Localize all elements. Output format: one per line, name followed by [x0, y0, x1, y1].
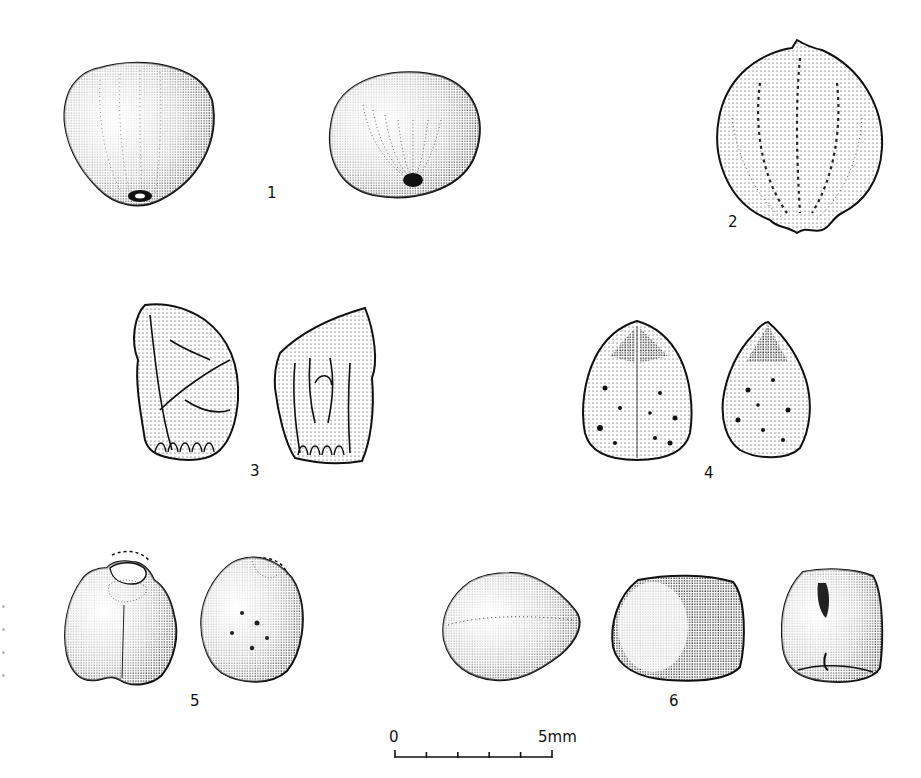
figure-1-view-a	[60, 60, 220, 210]
figure-3-view-b	[270, 303, 380, 468]
figure-5-view-a	[62, 550, 182, 690]
figure-6-view-a	[440, 570, 585, 685]
seed-illustration-plate: 1 2	[0, 0, 921, 778]
scale-bar: 0 5mm	[385, 728, 575, 768]
margin-marks	[2, 605, 10, 700]
figure-4-view-b	[718, 320, 813, 460]
figure-1-label: 1	[267, 184, 277, 202]
figure-2-label: 2	[728, 213, 738, 231]
figure-6-view-b	[608, 572, 748, 684]
figure-5-view-b	[197, 553, 307, 685]
figure-4-label: 4	[704, 464, 714, 482]
figure-6-label: 6	[669, 692, 679, 710]
figure-1-view-b	[313, 65, 488, 205]
figure-3-label: 3	[250, 462, 260, 480]
scale-bar-ruler	[385, 728, 575, 768]
figure-3-view-a	[130, 300, 245, 465]
figure-4-view-a	[580, 318, 695, 463]
figure-2-view	[712, 38, 887, 238]
figure-6-view-c	[778, 568, 888, 686]
figure-5-label: 5	[190, 692, 200, 710]
